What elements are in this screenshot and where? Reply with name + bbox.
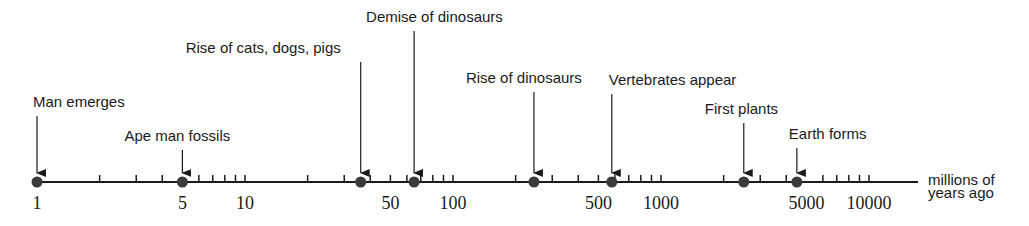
- event-label: Vertebrates appear: [609, 71, 737, 88]
- event-dot: [355, 177, 366, 188]
- minor-ticks: [100, 175, 869, 182]
- event-marker: Vertebrates appear: [606, 71, 736, 188]
- tick-label: 100: [440, 193, 467, 213]
- event-label: Man emerges: [33, 93, 125, 110]
- tick-label: 10: [236, 193, 254, 213]
- event-marker: Demise of dinosaurs: [366, 8, 503, 188]
- tick-labels: 1510501005001000500010000: [33, 193, 892, 213]
- event-marker: Rise of cats, dogs, pigs: [186, 39, 366, 188]
- event-label: Ape man fossils: [124, 127, 230, 144]
- event-dot: [177, 177, 188, 188]
- event-label: Rise of dinosaurs: [466, 69, 582, 86]
- event-marker: Man emerges: [32, 93, 125, 188]
- tick-label: 1: [33, 193, 42, 213]
- tick-label: 5000: [788, 193, 824, 213]
- event-dot: [606, 177, 617, 188]
- event-marker: Earth forms: [789, 125, 867, 188]
- event-label: Earth forms: [789, 125, 867, 142]
- event-dot: [791, 177, 802, 188]
- tick-label: 50: [381, 193, 399, 213]
- geologic-timeline: 1510501005001000500010000 Man emergesApe…: [0, 0, 1029, 226]
- event-dot: [409, 177, 420, 188]
- event-dot: [738, 177, 749, 188]
- event-label: First plants: [705, 100, 778, 117]
- svg-text:years ago: years ago: [928, 184, 994, 201]
- tick-label: 1000: [643, 193, 679, 213]
- axis-unit-label: millions of years ago: [928, 171, 996, 201]
- event-marker: First plants: [705, 100, 778, 188]
- event-dot: [32, 177, 43, 188]
- tick-label: 5: [178, 193, 187, 213]
- tick-label: 500: [585, 193, 612, 213]
- events: Man emergesApe man fossilsRise of cats, …: [32, 8, 867, 188]
- event-marker: Ape man fossils: [124, 127, 230, 188]
- event-marker: Rise of dinosaurs: [466, 69, 582, 188]
- tick-label: 10000: [847, 193, 892, 213]
- event-label: Rise of cats, dogs, pigs: [186, 39, 341, 56]
- event-label: Demise of dinosaurs: [366, 8, 503, 25]
- event-dot: [528, 177, 539, 188]
